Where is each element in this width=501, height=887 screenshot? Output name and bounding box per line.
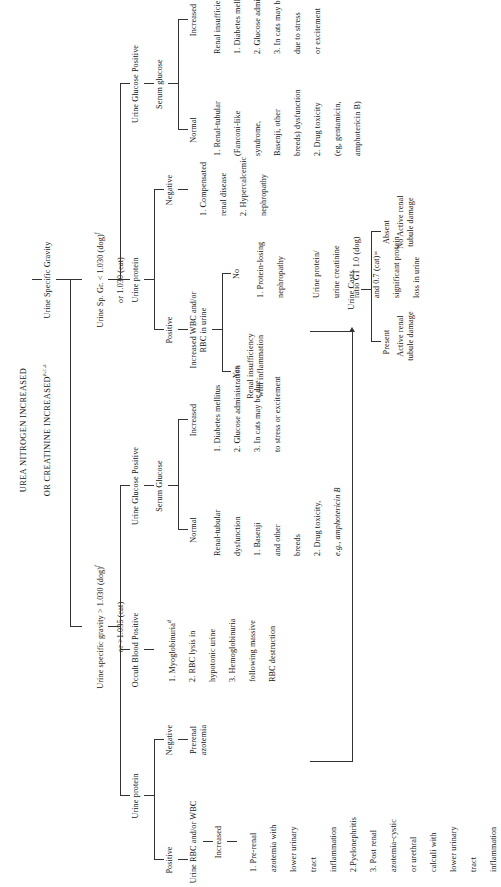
header-line-1: UREA NITROGEN INCREASED (19, 280, 30, 580)
right-glucose-increased-drop (178, 19, 188, 20)
urine-casts-absent-drop (371, 231, 381, 232)
left-protein-positive-label: Positive (165, 820, 175, 887)
left-glucose-normal-label: Normal (189, 495, 199, 565)
list-item: 2. RBC lysis in (188, 552, 198, 682)
right-glucose-normal-drop (178, 129, 188, 130)
right-protein-positive-stem (178, 329, 188, 330)
list-item: e.g., amphotericin B (333, 446, 343, 556)
right-wbc-rbc-test-label: Increased WBC and/or RBC in urine (189, 255, 209, 405)
list-item: to stress or excitement (273, 312, 283, 452)
list-item: Renal insufficiency with: (213, 0, 223, 54)
list-item: (Fanconi-like (233, 36, 243, 156)
left-glucose-increased-drop (178, 419, 188, 420)
list-item: 3. Post renal (369, 762, 379, 872)
list-item: 2. Drug toxicity, (313, 446, 323, 556)
list-item: 2. Drug toxicity (313, 36, 323, 156)
list-item: RBC destruction (268, 552, 278, 682)
left-branch-stem (108, 626, 120, 627)
list-item: nephropathy (276, 178, 286, 298)
urine-casts-absent-result: No Active renal tubule damage (396, 167, 416, 277)
list-item: breeds) dysfunction (293, 36, 303, 156)
right-protein-positive-label: Positive (165, 295, 175, 365)
header-stem (32, 279, 42, 280)
root-split-left-drop (70, 626, 82, 627)
list-item: 1. Protein-losing (256, 178, 266, 298)
right-no-label: No (232, 249, 242, 299)
list-item: following massive (248, 552, 258, 682)
right-urine-protein-stem (144, 279, 154, 280)
list-item: 1. Diabetes mellitus (233, 0, 243, 54)
list-item: syndrome, (253, 36, 263, 156)
urine-casts-present-label: Present (382, 307, 392, 377)
right-no-drop (222, 273, 231, 274)
urine-casts-split (371, 232, 372, 342)
list-item: inflammation (329, 762, 339, 872)
root-stem (56, 279, 70, 280)
right-protein-negative-drop (154, 189, 164, 190)
right-branch-drop-glucose (120, 83, 130, 84)
urine-casts-rail-left-riser (310, 761, 352, 762)
list-item: 1. Pre-renal (249, 762, 259, 872)
list-item: Urine protein/ (312, 178, 322, 298)
right-branch-drop-protein (120, 279, 130, 280)
list-item: due to stress (293, 0, 303, 54)
left-branch-drop-occult (120, 649, 130, 650)
right-glucose-normal-label: Normal (189, 95, 199, 165)
left-occult-blood-list: 1. Myoglobinuriad 2. RBC lysis in hypoto… (156, 552, 288, 682)
urine-casts-stem (361, 289, 371, 290)
list-item: tract (469, 762, 479, 872)
left-occult-blood-label: Occult Blood Positive (131, 580, 141, 720)
left-increased-stem (227, 841, 237, 842)
list-item: azotemia with (269, 762, 279, 872)
right-serum-glucose-label: Serum glucose (155, 24, 165, 144)
list-item: 3. Hemoglobinuria (228, 552, 238, 682)
left-urine-protein-label: Urine protein (131, 736, 141, 856)
left-glucose-normal-list: Renal-tubular dysfunction 1. Basenji and… (203, 446, 353, 556)
right-glucose-increased-list: Renal insufficiency with: 1. Diabetes me… (203, 0, 333, 54)
left-increased-findings-list: 1. Pre-renal azotemia with lower urinary… (239, 762, 501, 872)
left-protein-negative-drop (154, 739, 164, 740)
right-serum-glucose-stem (168, 83, 178, 84)
left-protein-negative-stem (178, 739, 188, 740)
right-urine-glucose-stem (144, 83, 154, 84)
list-item: (eg, gentamicin, (333, 36, 343, 156)
list-item: lower urinary (289, 762, 299, 872)
list-item: tract (309, 762, 319, 872)
urine-casts-present-drop (371, 341, 381, 342)
list-item: breeds (293, 446, 303, 556)
right-branch-footnote-ref: f (94, 233, 100, 235)
list-item: dysfunction (233, 446, 243, 556)
right-serum-glucose-split (178, 20, 179, 130)
left-protein-negative-label: Negative (165, 700, 175, 780)
list-item: calculi with (429, 762, 439, 872)
left-protein-positive-stem (178, 859, 188, 860)
list-item: or urethral (409, 762, 419, 872)
right-wbc-rbc-split (222, 274, 223, 372)
left-branch-split-bar (120, 486, 121, 796)
figure-header: UREA NITROGEN INCREASED OR CREATININE IN… (8, 280, 64, 580)
right-protein-negative-label: Negative (165, 155, 175, 225)
left-serum-glucose-split (178, 420, 179, 530)
left-serum-glucose-stem (168, 485, 178, 486)
left-branch-footnote-ref: f (94, 565, 100, 567)
list-item: azotemia-cystic (389, 762, 399, 872)
occult-footnote-ref: d (166, 620, 172, 623)
left-branch-drop-glucose (120, 485, 130, 486)
list-item (296, 178, 302, 298)
right-urine-protein-split (154, 190, 155, 330)
list-item: 1. Basenji (253, 446, 263, 556)
root-split-right-drop (70, 279, 82, 280)
right-wbc-rbc-stem (212, 329, 222, 330)
left-rbc-wbc-increased-label: Increased (214, 802, 224, 882)
root-node-label: Urine Specific Gravity (43, 200, 53, 360)
right-branch-split-bar (120, 84, 121, 280)
root-split-bar (70, 280, 71, 627)
left-serum-glucose-label: Serum Glucose (155, 426, 165, 546)
right-branch-stem (108, 279, 120, 280)
list-item: 1. Myoglobinuriad (166, 552, 178, 682)
left-urine-glucose-stem (144, 485, 154, 486)
right-yes-drop (222, 371, 231, 372)
list-item: Renal-tubular (213, 446, 223, 556)
